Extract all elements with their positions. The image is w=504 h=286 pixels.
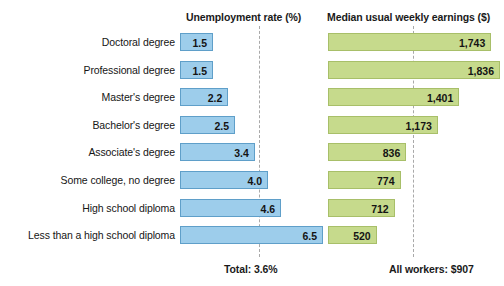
bar-value-label: 1,743 <box>459 34 485 52</box>
bar-unemployment: 4.0 <box>180 171 268 189</box>
bar-unemployment: 1.5 <box>180 33 213 51</box>
bar-unemployment: 1.5 <box>180 61 213 79</box>
education-unemployment-earnings-chart: Unemployment rate (%) Median usual weekl… <box>0 0 504 286</box>
bar-earnings: 1,836 <box>328 61 500 79</box>
bar-value-label: 1.5 <box>192 34 207 52</box>
panel-median-weekly-earnings: 1,7431,8361,4011,173836774712520 <box>328 0 504 286</box>
category-label: Professional degree <box>0 61 175 79</box>
bar-value-label: 774 <box>377 172 395 190</box>
bar-unemployment: 2.5 <box>180 116 235 134</box>
bar-earnings: 1,401 <box>328 88 459 106</box>
bar-value-label: 520 <box>353 227 371 245</box>
bar-earnings: 712 <box>328 199 395 217</box>
bar-earnings: 1,743 <box>328 33 491 51</box>
category-label: Master's degree <box>0 88 175 106</box>
bar-earnings: 1,173 <box>328 116 438 134</box>
bar-value-label: 1,401 <box>427 89 453 107</box>
bar-value-label: 1,173 <box>406 117 432 135</box>
category-label: High school diploma <box>0 199 175 217</box>
bar-unemployment: 3.4 <box>180 143 255 161</box>
panel-unemployment-rate: 1.51.52.22.53.44.04.66.5 <box>180 0 325 286</box>
category-label: Doctoral degree <box>0 33 175 51</box>
category-label-column: Doctoral degreeProfessional degreeMaster… <box>0 0 175 286</box>
footer-total-unemployment-rate: Total: 3.6% <box>224 263 278 275</box>
bar-value-label: 3.4 <box>234 144 249 162</box>
bar-value-label: 4.0 <box>247 172 262 190</box>
bar-earnings: 520 <box>328 226 377 244</box>
bar-earnings: 836 <box>328 143 406 161</box>
category-label: Associate's degree <box>0 143 175 161</box>
bar-earnings: 774 <box>328 171 401 189</box>
bar-value-label: 1,836 <box>468 62 494 80</box>
category-label: Some college, no degree <box>0 171 175 189</box>
bar-unemployment: 2.2 <box>180 88 228 106</box>
bar-value-label: 1.5 <box>192 62 207 80</box>
bar-value-label: 6.5 <box>302 227 317 245</box>
bar-value-label: 836 <box>383 144 401 162</box>
bar-value-label: 2.2 <box>208 89 223 107</box>
category-label: Less than a high school diploma <box>0 226 175 244</box>
reference-line-total-unemployment <box>259 26 260 257</box>
bar-value-label: 2.5 <box>214 117 229 135</box>
footer-all-workers-earnings: All workers: $907 <box>389 263 474 275</box>
bar-unemployment: 4.6 <box>180 199 281 217</box>
bar-unemployment: 6.5 <box>180 226 323 244</box>
bar-value-label: 712 <box>371 200 389 218</box>
bar-value-label: 4.6 <box>261 200 276 218</box>
category-label: Bachelor's degree <box>0 116 175 134</box>
